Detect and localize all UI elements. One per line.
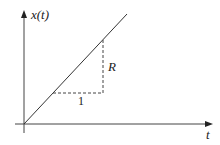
rise-label: R bbox=[107, 59, 116, 74]
ramp-diagram: x(t) t 1 R bbox=[0, 0, 220, 145]
y-axis-label: x(t) bbox=[30, 7, 49, 22]
y-axis-arrow-icon bbox=[21, 10, 27, 18]
run-label: 1 bbox=[78, 94, 84, 108]
x-axis-label: t bbox=[206, 127, 210, 142]
